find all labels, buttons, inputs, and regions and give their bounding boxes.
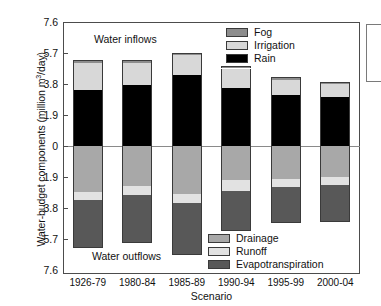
y-tick-mark xyxy=(63,208,68,209)
y-tick-mark xyxy=(63,239,68,240)
bar-segment-rain xyxy=(172,75,202,146)
bar-segment-evapotranspiration xyxy=(271,187,301,224)
legend-swatch-rain xyxy=(226,54,248,63)
bar-segment-drainage xyxy=(122,146,152,186)
bar-segment-drainage xyxy=(320,146,350,177)
y-tick-label: 3.8 xyxy=(0,79,58,89)
y-tick-mark xyxy=(63,84,68,85)
bar-segment-fog xyxy=(172,53,202,55)
legend-swatch-irrigation xyxy=(226,41,248,50)
legend-label: Rain xyxy=(254,53,276,64)
legend-swatch-evapotranspiration xyxy=(208,260,230,269)
annotation-water-inflows: Water inflows xyxy=(94,33,157,45)
legend-item-rain: Rain xyxy=(226,52,295,64)
bar-segment-rain xyxy=(73,90,103,146)
legend-label: Irrigation xyxy=(254,40,295,51)
y-tick-label: 7.6 xyxy=(0,17,58,27)
y-tick-label: 3.8 xyxy=(0,203,58,213)
legend-label: Runoff xyxy=(236,246,267,257)
bar-segment-drainage xyxy=(172,146,202,194)
zero-axis-line xyxy=(63,146,360,147)
legend-label: Fog xyxy=(254,27,272,38)
bar-segment-drainage xyxy=(221,146,251,180)
legend-item-irrigation: Irrigation xyxy=(226,39,295,51)
bar-segment-irrigation xyxy=(172,55,202,75)
legend-swatch-runoff xyxy=(208,247,230,256)
x-tick-label: 2000-04 xyxy=(303,277,367,288)
y-tick-mark xyxy=(63,146,68,147)
bar-segment-evapotranspiration xyxy=(172,203,202,255)
y-tick-label: 5.7 xyxy=(0,48,58,58)
bar-segment-rain xyxy=(221,88,251,146)
y-tick-label: 7.6 xyxy=(0,265,58,275)
annotation-water-outflows: Water outflows xyxy=(92,250,161,262)
bar-segment-irrigation xyxy=(122,63,152,85)
legend-swatch-drainage xyxy=(208,234,230,243)
bar-segment-evapotranspiration xyxy=(122,195,152,243)
y-tick-mark xyxy=(63,53,68,54)
bar-segment-runoff xyxy=(122,186,152,195)
legend-item-drainage: Drainage xyxy=(208,232,324,244)
y-tick-label: 1.9 xyxy=(0,110,58,120)
bar-segment-fog xyxy=(271,77,301,79)
bar-segment-rain xyxy=(271,95,301,146)
legend-item-evapotranspiration: Evapotranspiration xyxy=(208,258,324,270)
legend-label: Evapotranspiration xyxy=(236,259,324,270)
bar-segment-fog xyxy=(221,66,251,68)
y-tick-label: 1.9 xyxy=(0,172,58,182)
legend-outflows: DrainageRunoffEvapotranspiration xyxy=(208,232,324,271)
bar-segment-rain xyxy=(122,85,152,146)
bar-segment-drainage xyxy=(73,146,103,192)
chart-figure: Water-budget components (million m3/day)… xyxy=(0,0,381,306)
bar-segment-fog xyxy=(320,82,350,84)
bar-segment-rain xyxy=(320,97,350,146)
y-tick-mark xyxy=(63,177,68,178)
bar-segment-evapotranspiration xyxy=(221,191,251,231)
page-edge-artifact xyxy=(366,24,381,82)
y-tick-mark xyxy=(63,115,68,116)
bar-segment-irrigation xyxy=(271,80,301,96)
bar-group xyxy=(320,0,350,252)
bar-segment-drainage xyxy=(271,146,301,179)
y-tick-label: 5.7 xyxy=(0,234,58,244)
bar-segment-irrigation xyxy=(320,84,350,97)
bar-segment-runoff xyxy=(320,177,350,185)
legend-inflows: FogIrrigationRain xyxy=(226,26,295,65)
bar-segment-fog xyxy=(122,60,152,62)
bar-segment-fog xyxy=(73,60,103,63)
legend-item-runoff: Runoff xyxy=(208,245,324,257)
bar-segment-evapotranspiration xyxy=(73,200,103,248)
bar-segment-runoff xyxy=(221,180,251,191)
legend-swatch-fog xyxy=(226,28,248,37)
bar-group xyxy=(172,0,202,252)
x-axis-label: Scenario xyxy=(63,290,360,302)
legend-label: Drainage xyxy=(236,233,279,244)
legend-item-fog: Fog xyxy=(226,26,295,38)
bar-segment-irrigation xyxy=(221,69,251,89)
bar-segment-evapotranspiration xyxy=(320,185,350,222)
bar-segment-irrigation xyxy=(73,63,103,90)
bar-segment-runoff xyxy=(73,192,103,200)
bar-segment-runoff xyxy=(271,179,301,187)
y-tick-label: 0 xyxy=(0,141,58,151)
bar-segment-runoff xyxy=(172,194,202,203)
